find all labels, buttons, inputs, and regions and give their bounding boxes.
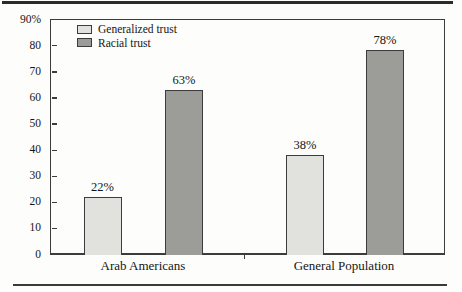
top-rule <box>2 1 453 4</box>
ytick-mark-80 <box>52 45 57 46</box>
ytick-label-70: 70 <box>0 65 41 78</box>
bar-general-population-racial-trust <box>366 50 404 255</box>
ytick-label-90: 90% <box>0 13 41 26</box>
legend-label-racial-trust: Racial trust <box>98 37 151 49</box>
value-label-general-population-generalized-trust: 38% <box>275 138 335 153</box>
legend-label-generalized-trust: Generalized trust <box>98 23 177 35</box>
x-axis-mid-tick <box>244 255 245 259</box>
bar-general-population-generalized-trust <box>286 155 324 255</box>
ytick-label-20: 20 <box>0 195 41 208</box>
bar-arab-americans-generalized-trust <box>84 197 122 255</box>
bar-chart-figure: 0102030405060708090% 22%63%38%78% Arab A… <box>0 0 462 292</box>
ytick-mark-10 <box>52 228 57 229</box>
category-label-general-population: General Population <box>254 258 434 273</box>
value-label-general-population-racial-trust: 78% <box>355 33 415 48</box>
ytick-mark-40 <box>52 150 57 151</box>
ytick-mark-70 <box>52 71 57 72</box>
bottom-rule <box>13 284 447 286</box>
ytick-label-60: 60 <box>0 91 41 104</box>
legend-swatch-icon <box>77 38 92 47</box>
legend-swatch-icon <box>77 25 92 34</box>
ytick-label-30: 30 <box>0 169 41 182</box>
ytick-mark-30 <box>52 176 57 177</box>
legend-row-generalized-trust: Generalized trust <box>77 23 177 36</box>
ytick-mark-20 <box>52 202 57 203</box>
legend-row-racial-trust: Racial trust <box>77 37 177 50</box>
ytick-label-10: 10 <box>0 221 41 234</box>
ytick-label-40: 40 <box>0 143 41 156</box>
ytick-mark-60 <box>52 97 57 98</box>
category-label-arab-americans: Arab Americans <box>53 258 233 273</box>
ytick-label-80: 80 <box>0 39 41 52</box>
ytick-label-50: 50 <box>0 117 41 130</box>
value-label-arab-americans-racial-trust: 63% <box>154 73 214 88</box>
ytick-mark-50 <box>52 123 57 124</box>
ytick-label-0: 0 <box>0 248 41 261</box>
legend: Generalized trustRacial trust <box>77 23 177 50</box>
value-label-arab-americans-generalized-trust: 22% <box>73 180 133 195</box>
bar-arab-americans-racial-trust <box>165 90 203 256</box>
